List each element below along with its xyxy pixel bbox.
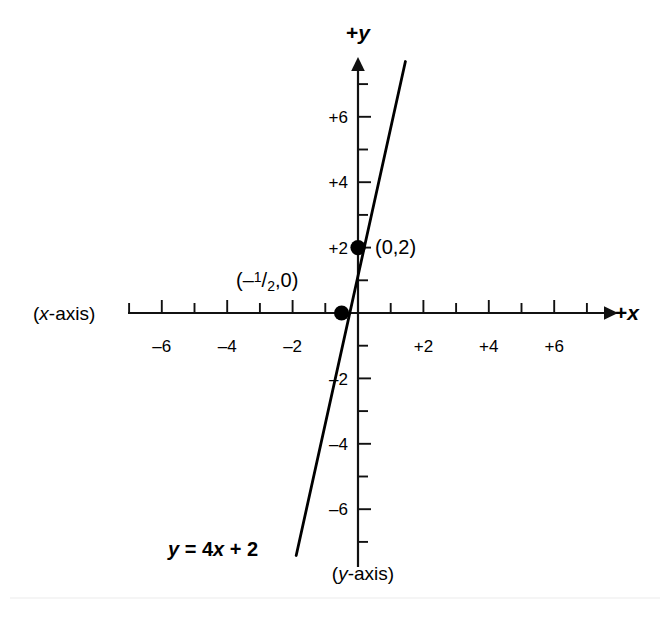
point-x-intercept — [334, 305, 349, 320]
x-tick-label-4: +4 — [479, 337, 498, 356]
x-tick-label-2: +2 — [414, 337, 433, 356]
point-label-0-2: (0,2) — [375, 236, 416, 258]
equation-label: y = 4x + 2 — [167, 538, 258, 560]
y-tick-label--4: –4 — [329, 435, 348, 454]
x-tick-label--4: –4 — [218, 337, 237, 356]
line-y-equals-4x-plus-2 — [296, 62, 405, 556]
x-tick-label--2: –2 — [283, 337, 302, 356]
x-axis-arrow-label: +x — [615, 301, 640, 324]
x-axis-arrow-variable: x — [626, 301, 640, 324]
x-axis-group — [128, 306, 618, 320]
y-tick-label-4: +4 — [329, 173, 348, 192]
y-tick-label--2: –2 — [329, 370, 348, 389]
x-axis-caption: (x-axis) — [33, 303, 95, 324]
y-tick-label-2: +2 — [329, 239, 348, 258]
y-tick-label--6: –6 — [329, 500, 348, 519]
y-tick-label-6: +6 — [329, 108, 348, 127]
point-y-intercept — [350, 240, 365, 255]
x-tick-label--6: –6 — [152, 337, 171, 356]
y-axis-arrow-label: +y — [346, 21, 371, 44]
y-axis-caption: (y-axis) — [332, 563, 394, 584]
cartesian-plane-svg: –6 –4 –2 +2 +4 +6 +6 +4 +2 –2 –4 –6 +y +… — [0, 0, 670, 617]
x-tick-label-6: +6 — [545, 337, 564, 356]
point-label-neg-half-0: (–1/2,0) — [236, 269, 298, 294]
y-axis-arrowhead — [351, 57, 365, 71]
graph-figure: –6 –4 –2 +2 +4 +6 +6 +4 +2 –2 –4 –6 +y +… — [0, 0, 670, 617]
y-axis-arrow-variable: y — [357, 21, 371, 44]
